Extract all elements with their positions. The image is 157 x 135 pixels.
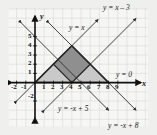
equation-label-y-equals-x: y = x	[69, 24, 84, 32]
x-tick-label-6: 6	[87, 84, 91, 91]
x-tick-label-3: 3	[60, 84, 64, 91]
x-tick-label-8: 8	[106, 84, 110, 91]
x-tick-label-5: 5	[78, 84, 82, 91]
graph-screenshot: y = x – 3 y = x y = 0 y = -x + 5 y = -x …	[0, 0, 157, 135]
coordinate-plane	[0, 0, 157, 135]
equation-label-y-equals-neg-x-plus-8: y = -x + 8	[108, 122, 139, 130]
x-tick-label-2: 2	[51, 84, 55, 91]
x-tick-label-neg2: -2	[11, 84, 17, 91]
top-margin	[0, 0, 157, 8]
equation-label-y-equals-0: y = 0	[116, 71, 132, 79]
right-margin	[149, 0, 157, 135]
x-tick-label-9: 9	[115, 84, 119, 91]
y-tick-label-1: 1	[28, 69, 32, 76]
equation-label-y-equals-neg-x-plus-5: y = -x + 5	[58, 105, 89, 113]
x-axis-label: x	[142, 80, 146, 88]
y-tick-label-2: 2	[28, 60, 32, 67]
y-tick-label-4: 4	[28, 42, 32, 49]
x-tick-label-7: 7	[97, 84, 101, 91]
x-tick-label-1: 1	[42, 84, 46, 91]
y-tick-label-3: 3	[28, 51, 32, 58]
y-axis-label: y	[40, 13, 44, 21]
equation-label-y-equals-x-minus-3: y = x – 3	[103, 4, 130, 12]
left-margin	[0, 0, 8, 135]
y-tick-label-5: 5	[28, 33, 32, 40]
x-tick-label-4: 4	[69, 84, 73, 91]
y-tick-label-neg2: -2	[28, 93, 34, 100]
x-tick-label-neg1: -1	[21, 84, 27, 91]
